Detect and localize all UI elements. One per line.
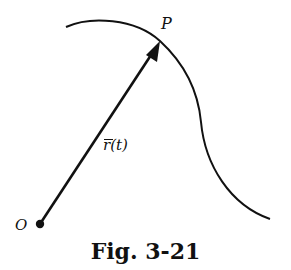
point-p-label: P xyxy=(161,14,172,33)
origin-label: O xyxy=(15,216,27,234)
space-curve xyxy=(66,21,270,219)
diagram-canvas xyxy=(0,0,291,270)
position-vector-line xyxy=(40,52,153,224)
vector-bar-icon xyxy=(104,139,113,140)
origin-dot xyxy=(36,220,44,228)
position-vector-label: r(t) xyxy=(103,136,128,154)
figure-caption: Fig. 3-21 xyxy=(0,238,291,264)
